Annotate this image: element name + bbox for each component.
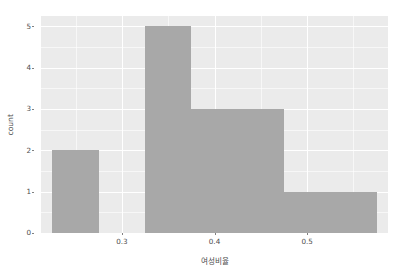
y-tick-mark: [32, 150, 34, 151]
y-axis-title: count: [5, 16, 16, 233]
y-tick-label: 0: [26, 229, 31, 236]
y-axis-title-text: count: [7, 114, 15, 135]
y-tick-label: 3: [26, 105, 31, 112]
y-tick-label: 4: [26, 64, 31, 71]
y-tick-mark: [32, 192, 34, 193]
y-tick-label: 5: [26, 23, 31, 30]
histogram-bar: [284, 192, 330, 233]
x-axis: 0.30.40.5: [41, 233, 388, 249]
y-tick-mark: [32, 26, 34, 27]
gridline-major-x: [122, 16, 123, 233]
x-tick-label: 0.3: [116, 238, 127, 245]
plot-panel: [41, 16, 388, 233]
y-tick-label: 1: [26, 188, 31, 195]
histogram-bar: [145, 26, 191, 233]
y-tick-mark: [32, 68, 34, 69]
y-tick-mark: [32, 109, 34, 110]
x-tick-mark: [307, 233, 308, 235]
x-tick-label: 0.4: [209, 238, 220, 245]
y-tick-label: 2: [26, 147, 31, 154]
histogram-chart: 012345 0.30.40.5 여성비율 count: [0, 0, 401, 277]
histogram-bar: [191, 109, 237, 233]
histogram-bar: [330, 192, 376, 233]
histogram-bar: [52, 150, 98, 233]
x-axis-title: 여성비율: [41, 258, 388, 266]
y-tick-mark: [32, 233, 34, 234]
x-tick-label: 0.5: [301, 238, 312, 245]
x-tick-mark: [215, 233, 216, 235]
histogram-bar: [238, 109, 284, 233]
x-tick-mark: [122, 233, 123, 235]
